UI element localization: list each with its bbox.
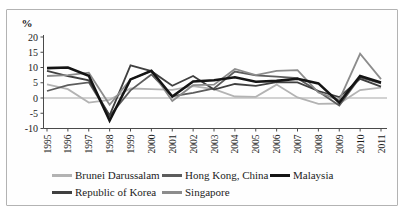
legend-label: Republic of Korea — [75, 186, 156, 199]
x-tick-label: 2001 — [168, 134, 178, 153]
x-tick-label: 2002 — [189, 134, 199, 153]
x-tick-label: 2003 — [210, 134, 220, 153]
x-tick-label: 1999 — [126, 134, 136, 153]
x-tick-label: 2009 — [335, 134, 345, 153]
series-line-republic-of-korea — [47, 65, 381, 115]
x-tick-label: 1998 — [105, 134, 115, 153]
legend-item-singapore: Singapore — [162, 186, 230, 199]
y-axis-unit-label: % — [22, 17, 33, 29]
legend-label: Malaysia — [293, 169, 333, 182]
legend-item-malaysia: Malaysia — [270, 169, 333, 182]
legend-swatch-brunei-darussalam — [52, 174, 72, 177]
legend-swatch-malaysia — [270, 174, 290, 178]
x-tick-label: 2010 — [356, 134, 366, 153]
chart-figure: %20151050-5-1019951996199719981999200020… — [0, 0, 405, 213]
legend-label: Brunei Darussalam — [75, 169, 160, 182]
legend-swatch-singapore — [162, 191, 182, 194]
y-tick-label: 10 — [28, 62, 38, 73]
legend-swatch-hong-kong-china — [162, 174, 182, 177]
x-tick-label: 2011 — [377, 134, 387, 153]
x-tick-label: 2004 — [230, 134, 240, 153]
x-tick-label: 1996 — [63, 134, 73, 153]
x-tick-label: 2000 — [147, 134, 157, 153]
y-tick-label: 15 — [28, 47, 38, 58]
y-tick-label: 0 — [33, 93, 38, 104]
y-tick-label: -5 — [30, 108, 38, 119]
x-tick-label: 2006 — [272, 134, 282, 153]
x-tick-label: 1995 — [43, 134, 53, 153]
x-tick-label: 2007 — [293, 134, 303, 153]
legend-label: Hong Kong, China — [185, 169, 268, 182]
x-tick-label: 2008 — [314, 134, 324, 153]
y-tick-label: 20 — [28, 32, 38, 43]
series-line-malaysia — [47, 68, 381, 121]
legend-item-hong-kong-china: Hong Kong, China — [162, 169, 268, 182]
y-tick-label: 5 — [33, 77, 38, 88]
legend-item-republic-of-korea: Republic of Korea — [52, 186, 156, 199]
legend-item-brunei-darussalam: Brunei Darussalam — [52, 169, 160, 182]
legend-swatch-republic-of-korea — [52, 191, 72, 194]
y-tick-label: -10 — [25, 123, 38, 134]
x-tick-label: 1997 — [84, 134, 94, 153]
legend-label: Singapore — [185, 186, 230, 199]
x-tick-label: 2005 — [251, 134, 261, 153]
